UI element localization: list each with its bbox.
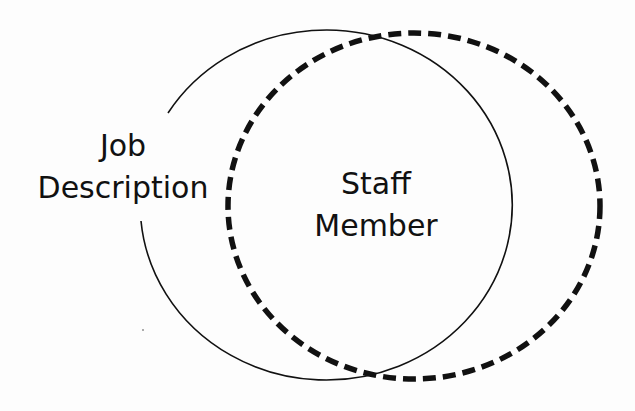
staff-member-label-line2: Member [314,208,438,243]
job-description-label-line2: Description [38,170,209,205]
job-description-circle [141,30,512,380]
staff-member-label-line1: Staff [341,166,412,201]
venn-diagram: Job Description Staff Member [0,0,635,411]
speck [142,329,144,331]
staff-member-circle [228,33,600,379]
job-description-label-line1: Job [98,128,146,163]
